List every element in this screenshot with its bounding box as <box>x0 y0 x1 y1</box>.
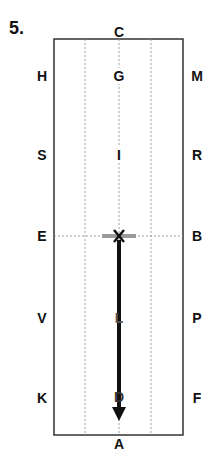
letter-k: K <box>37 390 47 406</box>
letter-i: I <box>116 147 122 163</box>
letter-b: B <box>192 228 202 244</box>
arena-diagram <box>0 0 212 469</box>
letter-r: R <box>192 147 202 163</box>
letter-a: A <box>114 436 124 452</box>
letter-g: G <box>113 68 126 84</box>
letter-s: S <box>37 147 46 163</box>
letter-f: F <box>193 390 202 406</box>
letter-l: L <box>115 310 124 326</box>
letter-m: M <box>191 68 203 84</box>
letter-d: D <box>114 389 124 405</box>
letter-c: C <box>114 24 124 40</box>
letter-v: V <box>37 310 46 326</box>
letter-h: H <box>37 68 47 84</box>
letter-p: P <box>192 310 201 326</box>
letter-e: E <box>37 228 46 244</box>
arrow-head-icon <box>112 407 126 421</box>
